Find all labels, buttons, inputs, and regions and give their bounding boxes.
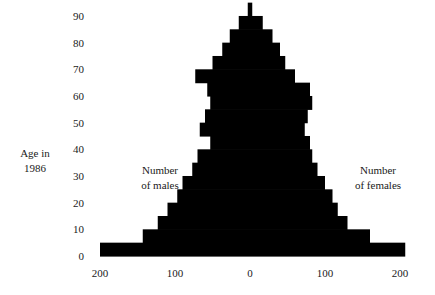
bar-left-60-64 <box>207 83 250 97</box>
annotation-females-line2: of females <box>322 178 434 193</box>
bar-right-60-64 <box>250 83 310 97</box>
bar-right-35-39 <box>250 149 312 163</box>
y-tick-90: 90 <box>58 11 84 22</box>
annotation-number-of-females: Number of females <box>322 163 434 193</box>
bar-left-15-19 <box>168 203 251 217</box>
y-axis-title: Age in 1986 <box>4 146 66 176</box>
y-tick-80: 80 <box>58 38 84 49</box>
bar-right-30-34 <box>250 163 318 177</box>
bar-right-15-19 <box>250 203 338 217</box>
bar-left-80-84 <box>230 29 250 43</box>
bar-left-85-89 <box>239 16 250 30</box>
bar-left-55-59 <box>210 96 250 110</box>
bar-right-55-59 <box>250 96 312 110</box>
x-tick-3: 100 <box>305 268 345 279</box>
bar-right-10-14 <box>250 216 348 230</box>
y-tick-70: 70 <box>58 64 84 75</box>
bar-right-70-74 <box>250 56 285 70</box>
bar-right-75-79 <box>250 43 280 57</box>
male-bars <box>100 3 250 257</box>
bar-left-5-9 <box>143 229 250 243</box>
bar-left-40-44 <box>210 136 250 150</box>
bar-right-65-69 <box>250 69 295 83</box>
bar-left-0-4 <box>100 243 250 257</box>
y-tick-30: 30 <box>58 171 84 182</box>
bar-left-45-49 <box>200 123 250 137</box>
bar-right-90+ <box>250 3 252 17</box>
bar-right-80-84 <box>250 29 273 43</box>
bar-left-65-69 <box>195 69 250 83</box>
annotation-males-line1: Number <box>104 163 216 178</box>
bar-left-10-14 <box>158 216 250 230</box>
bar-right-50-54 <box>250 109 308 123</box>
bar-left-90+ <box>248 3 250 17</box>
y-tick-60: 60 <box>58 91 84 102</box>
bar-left-75-79 <box>222 43 250 57</box>
bar-right-0-4 <box>250 243 405 257</box>
annotation-females-line1: Number <box>322 163 434 178</box>
y-tick-50: 50 <box>58 118 84 129</box>
bar-right-85-89 <box>250 16 263 30</box>
bar-right-25-29 <box>250 176 325 190</box>
bar-right-40-44 <box>250 136 310 150</box>
annotation-males-line2: of males <box>104 178 216 193</box>
y-tick-40: 40 <box>58 144 84 155</box>
bar-right-20-24 <box>250 189 333 203</box>
bar-right-5-9 <box>250 229 370 243</box>
female-bars <box>250 3 405 257</box>
y-tick-20: 20 <box>58 198 84 209</box>
population-pyramid-figure: Age in 1986 0102030405060708090 20010001… <box>0 0 435 295</box>
annotation-number-of-males: Number of males <box>104 163 216 193</box>
x-tick-4: 200 <box>380 268 420 279</box>
bar-left-70-74 <box>213 56 251 70</box>
bar-left-50-54 <box>205 109 250 123</box>
bar-left-35-39 <box>198 149 251 163</box>
y-tick-0: 0 <box>58 251 84 262</box>
y-axis-title-line1: Age in <box>4 146 66 161</box>
x-tick-2: 0 <box>230 268 270 279</box>
y-axis-title-line2: 1986 <box>4 161 66 176</box>
x-tick-1: 100 <box>155 268 195 279</box>
bar-right-45-49 <box>250 123 305 137</box>
y-tick-10: 10 <box>58 224 84 235</box>
x-tick-0: 200 <box>80 268 120 279</box>
